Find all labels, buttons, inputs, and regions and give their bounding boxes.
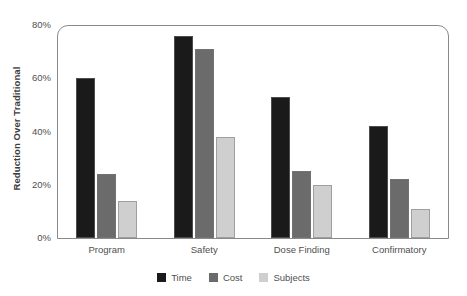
y-axis-tick-label: 60%: [6, 73, 51, 83]
y-axis-tick-label: 20%: [6, 180, 51, 190]
bar-subjects-dose-finding: [313, 185, 332, 238]
x-axis-tick-labels: ProgramSafetyDose FindingConfirmatory: [58, 244, 448, 260]
x-axis-tick-label: Program: [89, 244, 125, 255]
legend-swatch-time-icon: [157, 273, 166, 282]
plot-area: [58, 25, 448, 238]
x-axis-tick-label: Dose Finding: [274, 244, 330, 255]
bar-time-program: [76, 78, 95, 238]
y-axis-tick-label: 0%: [6, 233, 51, 243]
chart-legend: TimeCostSubjects: [0, 272, 467, 283]
bar-time-safety: [174, 36, 193, 238]
bar-group: [271, 25, 332, 238]
x-axis-tick-label: Confirmatory: [372, 244, 426, 255]
bar-chart: Reduction Over Traditional 0%20%40%60%80…: [0, 0, 467, 296]
legend-swatch-cost-icon: [209, 273, 218, 282]
bar-group: [369, 25, 430, 238]
bar-subjects-safety: [216, 137, 235, 238]
bar-group: [174, 25, 235, 238]
bar-cost-dose-finding: [292, 171, 311, 238]
legend-item-subjects[interactable]: Subjects: [259, 272, 309, 283]
legend-label: Cost: [223, 272, 243, 283]
bar-group: [76, 25, 137, 238]
bar-cost-safety: [195, 49, 214, 238]
x-axis-tick-label: Safety: [191, 244, 218, 255]
legend-label: Time: [171, 272, 192, 283]
legend-item-time[interactable]: Time: [157, 272, 192, 283]
bar-time-dose-finding: [271, 97, 290, 238]
bar-subjects-program: [118, 201, 137, 238]
y-axis-tick-label: 80%: [6, 20, 51, 30]
legend-label: Subjects: [273, 272, 309, 283]
y-axis-tick-label: 40%: [6, 127, 51, 137]
bar-cost-confirmatory: [390, 179, 409, 238]
legend-swatch-subjects-icon: [259, 273, 268, 282]
bar-subjects-confirmatory: [411, 209, 430, 238]
bar-time-confirmatory: [369, 126, 388, 238]
legend-item-cost[interactable]: Cost: [209, 272, 243, 283]
bar-cost-program: [97, 174, 116, 238]
